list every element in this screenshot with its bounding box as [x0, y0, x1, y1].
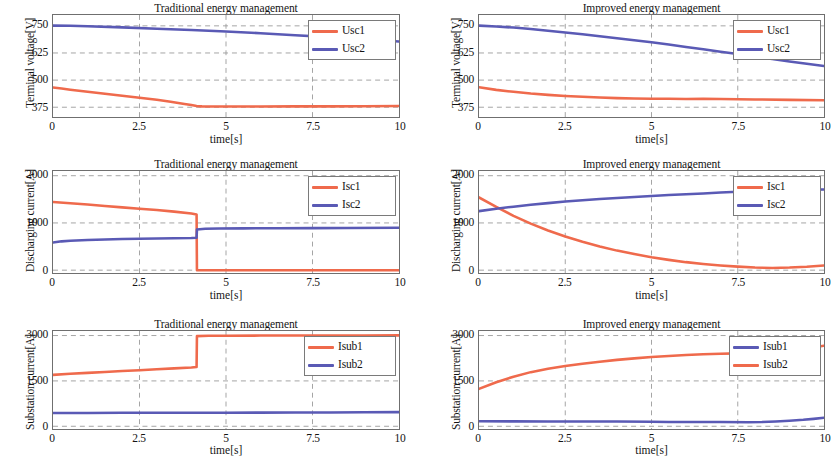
panel-bot-left-legend-swatch-0	[308, 346, 334, 349]
panel-mid-right-ytick-1: 1000	[426, 216, 474, 228]
panel-mid-left-ytick-2: 2000	[0, 168, 48, 180]
panel-mid-right-xtick-1: 2.5	[545, 276, 585, 288]
panel-mid-left-legend-swatch-1	[312, 204, 338, 207]
panel-top-left-xtick-0: 0	[32, 120, 72, 132]
panel-mid-left-legend-item-1[interactable]: Isc2	[312, 199, 391, 212]
panel-top-left-legend-swatch-1	[312, 48, 338, 51]
panel-top-left-xtick-4: 10	[380, 120, 420, 132]
panel-top-right-ytick-3: 750	[426, 18, 474, 30]
panel-top-left-ytick-2: 625	[0, 46, 48, 58]
panel-mid-right-ytick-2: 2000	[426, 168, 474, 180]
panel-mid-left-ytick-1: 1000	[0, 216, 48, 228]
panel-top-right-legend-item-1[interactable]: Usc2	[737, 43, 816, 56]
panel-mid-left-ylabel: Discharging current[A]	[24, 169, 36, 272]
panel-mid-left-title: Traditional energy management	[52, 158, 400, 170]
panel-bot-left-legend-swatch-1	[308, 364, 334, 367]
panel-bot-right-ytick-1: 1500	[426, 374, 474, 386]
panel-mid-left-ytick-0: 0	[0, 264, 48, 276]
panel-mid-right-legend-item-1[interactable]: Isc2	[737, 199, 816, 212]
panel-bot-right-legend-swatch-1	[733, 364, 759, 367]
panel-bot-right-ytick-0: 0	[426, 420, 474, 432]
panel-top-right-legend[interactable]: Usc1Usc2	[733, 20, 821, 60]
figure-six-panel-plot: Traditional energy managementTerminal vo…	[0, 0, 835, 466]
panel-bot-right-title: Improved energy management	[478, 318, 825, 330]
panel-top-right-legend-label-1: Usc2	[767, 43, 790, 55]
panel-mid-right-ylabel: Discharging current[A]	[450, 169, 462, 272]
panel-bot-left-legend-item-0[interactable]: Isub1	[308, 341, 391, 354]
panel-mid-right-ytick-0: 0	[426, 264, 474, 276]
panel-top-left-legend-item-1[interactable]: Usc2	[312, 43, 391, 56]
panel-bot-right-xtick-3: 7.5	[718, 432, 758, 444]
panel-mid-right-legend-item-0[interactable]: Isc1	[737, 181, 816, 194]
panel-mid-left-xtick-2: 5	[206, 276, 246, 288]
panel-mid-left-legend-swatch-0	[312, 186, 338, 189]
panel-top-right-xlabel: time[s]	[612, 133, 692, 145]
panel-top-left-ytick-3: 750	[0, 18, 48, 30]
panel-mid-left-xtick-1: 2.5	[119, 276, 159, 288]
panel-bot-left-xtick-1: 2.5	[119, 432, 159, 444]
panel-bot-right-xtick-0: 0	[458, 432, 498, 444]
panel-top-right-xtick-4: 10	[805, 120, 835, 132]
panel-bot-right-xtick-2: 5	[632, 432, 672, 444]
panel-bot-left-ytick-2: 3000	[0, 328, 48, 340]
panel-top-left-legend-label-1: Usc2	[342, 43, 365, 55]
panel-bot-left-ytick-1: 1500	[0, 374, 48, 386]
panel-top-left-ylabel: Terminal voltage[V]	[24, 18, 36, 108]
panel-bot-right-xtick-4: 10	[805, 432, 835, 444]
panel-top-right-xtick-2: 5	[632, 120, 672, 132]
panel-mid-right-xtick-2: 5	[632, 276, 672, 288]
panel-bot-left-legend[interactable]: Isub1Isub2	[304, 336, 396, 376]
panel-bot-left-ylabel: Substation current[A]	[24, 334, 36, 430]
panel-top-right-xtick-0: 0	[458, 120, 498, 132]
panel-mid-right-legend-swatch-1	[737, 204, 763, 207]
panel-bot-left-title: Traditional energy management	[52, 318, 400, 330]
panel-top-left-legend-label-0: Usc1	[342, 25, 365, 37]
panel-bot-left-xlabel: time[s]	[186, 444, 266, 456]
panel-top-right-ytick-2: 625	[426, 46, 474, 58]
panel-mid-right-legend-label-0: Isc1	[767, 181, 785, 193]
panel-mid-right-legend-label-1: Isc2	[767, 199, 785, 211]
panel-bot-right-legend[interactable]: Isub1Isub2	[729, 336, 821, 376]
panel-mid-left-xlabel: time[s]	[186, 289, 266, 301]
panel-top-left-title: Traditional energy management	[52, 2, 400, 14]
panel-top-left-legend-swatch-0	[312, 30, 338, 33]
panel-bot-left-xtick-3: 7.5	[293, 432, 333, 444]
panel-mid-left-xtick-4: 10	[380, 276, 420, 288]
panel-top-left-legend-item-0[interactable]: Usc1	[312, 25, 391, 38]
panel-top-left-legend[interactable]: Usc1Usc2	[308, 20, 396, 60]
panel-top-left-xtick-3: 7.5	[293, 120, 333, 132]
panel-mid-left-xtick-0: 0	[32, 276, 72, 288]
panel-top-right-legend-swatch-1	[737, 48, 763, 51]
panel-top-right-ytick-1: 500	[426, 73, 474, 85]
panel-top-right-legend-item-0[interactable]: Usc1	[737, 25, 816, 38]
panel-top-left-xlabel: time[s]	[186, 133, 266, 145]
panel-mid-right-xtick-4: 10	[805, 276, 835, 288]
panel-top-right-xtick-1: 2.5	[545, 120, 585, 132]
panel-bot-right-ytick-2: 3000	[426, 328, 474, 340]
panel-bot-left-legend-item-1[interactable]: Isub2	[308, 359, 391, 372]
panel-mid-left-legend-item-0[interactable]: Isc1	[312, 181, 391, 194]
panel-mid-left-legend[interactable]: Isc1Isc2	[308, 176, 396, 216]
panel-bot-left-series-1	[53, 412, 399, 413]
panel-top-right-legend-label-0: Usc1	[767, 25, 790, 37]
panel-top-right-xtick-3: 7.5	[718, 120, 758, 132]
panel-top-right-legend-swatch-0	[737, 30, 763, 33]
panel-mid-right-title: Improved energy management	[478, 158, 825, 170]
panel-mid-right-legend[interactable]: Isc1Isc2	[733, 176, 821, 216]
panel-bot-left-xtick-0: 0	[32, 432, 72, 444]
panel-bot-right-legend-item-1[interactable]: Isub2	[733, 359, 816, 372]
panel-top-left-xtick-2: 5	[206, 120, 246, 132]
panel-mid-right-xtick-3: 7.5	[718, 276, 758, 288]
panel-bot-right-xtick-1: 2.5	[545, 432, 585, 444]
panel-top-right-ylabel: Terminal voltage[V]	[450, 18, 462, 108]
panel-bot-right-xlabel: time[s]	[612, 444, 692, 456]
panel-top-right-ytick-0: 375	[426, 101, 474, 113]
panel-bot-right-legend-item-0[interactable]: Isub1	[733, 341, 816, 354]
panel-bot-left-xtick-2: 5	[206, 432, 246, 444]
panel-bot-left-ytick-0: 0	[0, 420, 48, 432]
panel-mid-left-legend-label-1: Isc2	[342, 199, 360, 211]
panel-mid-right-legend-swatch-0	[737, 186, 763, 189]
panel-mid-right-xlabel: time[s]	[612, 289, 692, 301]
panel-bot-right-legend-swatch-0	[733, 346, 759, 349]
panel-mid-right-xtick-0: 0	[458, 276, 498, 288]
